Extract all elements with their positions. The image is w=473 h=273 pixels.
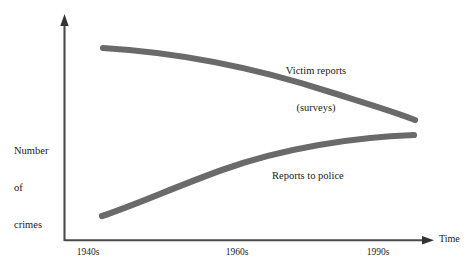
x-axis [65, 236, 435, 244]
series-label-victim-reports-line-2: (surveys) [274, 102, 358, 114]
x-tick-label-1940s: 1940s [65, 247, 111, 258]
y-axis [60, 14, 68, 241]
chart-canvas [0, 0, 473, 273]
chart-figure: 1940s Number of crimes Victim reports (s… [0, 0, 473, 273]
series-line-reports-to-police [102, 135, 414, 216]
x-tick-label-1960s: 1960s [214, 247, 260, 258]
y-axis-title-line-of: of [14, 182, 48, 194]
y-axis-title: 1940s Number of crimes [14, 108, 48, 257]
series-label-victim-reports-line-1: Victim reports [274, 65, 358, 77]
x-tick-label-1990s: 1990s [355, 247, 401, 258]
y-axis-title-line-number: Number [14, 145, 48, 157]
y-axis-title-line-crimes: crimes [14, 219, 48, 231]
y-axis-arrowhead-icon [60, 14, 68, 26]
x-axis-arrowhead-icon [422, 236, 434, 244]
series-line-victim-reports [103, 48, 415, 120]
series-label-victim-reports: Victim reports (surveys) [274, 40, 358, 139]
x-axis-title: Time [439, 233, 460, 245]
series-label-reports-to-police: Reports to police [272, 170, 344, 182]
